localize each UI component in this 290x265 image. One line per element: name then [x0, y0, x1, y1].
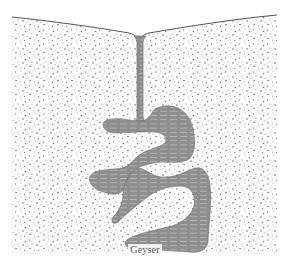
ground-rock — [12, 15, 277, 253]
geyser-diagram — [0, 0, 290, 265]
